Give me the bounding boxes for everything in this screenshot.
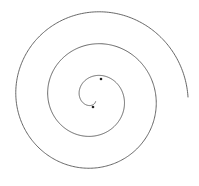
background — [0, 0, 199, 186]
spiral-drawing — [0, 0, 199, 186]
inner-ring-dot — [100, 78, 103, 81]
spiral-figure — [0, 0, 199, 186]
inner-tip-dot — [92, 106, 95, 109]
